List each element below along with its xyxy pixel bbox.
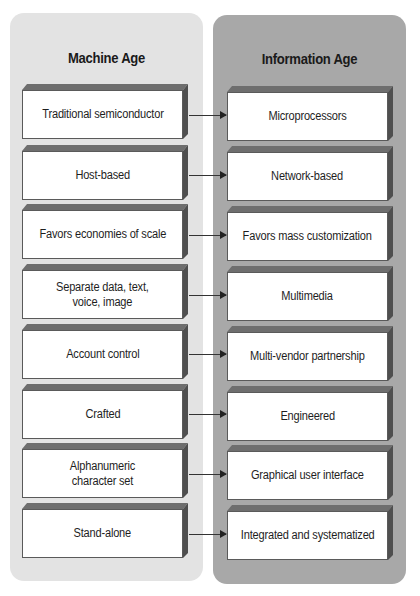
- machine-age-box: Favors economies of scale: [22, 204, 188, 259]
- box-label: Favors economies of scale: [39, 227, 166, 242]
- arrow-right-icon: [189, 474, 226, 475]
- arrow-right-icon: [189, 534, 226, 535]
- box-label: Network-based: [272, 169, 344, 184]
- box-label: Graphical user interface: [251, 468, 364, 483]
- box-label: Account control: [66, 347, 139, 362]
- information-age-box: Microprocessors: [227, 86, 393, 141]
- machine-age-box: Stand-alone: [22, 503, 188, 558]
- box-label: Alphanumeric character set: [70, 459, 135, 489]
- arrow-right-icon: [189, 414, 226, 415]
- box-label: Favors mass customization: [243, 229, 372, 244]
- box-label: Multimedia: [282, 289, 334, 304]
- information-age-box: Multimedia: [227, 266, 393, 321]
- machine-age-box: Host-based: [22, 145, 188, 200]
- box-label: Host-based: [75, 168, 130, 183]
- box-label: Crafted: [85, 407, 120, 422]
- box-label: Microprocessors: [268, 109, 346, 124]
- machine-age-box: Account control: [22, 324, 188, 379]
- arrow-right-icon: [189, 295, 226, 296]
- information-age-box: Engineered: [227, 386, 393, 441]
- machine-age-title: Machine Age: [20, 50, 194, 66]
- information-age-box: Network-based: [227, 146, 393, 201]
- information-age-box: Favors mass customization: [227, 206, 393, 261]
- machine-age-box: Alphanumeric character set: [22, 443, 188, 498]
- arrow-right-icon: [189, 235, 226, 236]
- box-label: Stand-alone: [74, 526, 132, 541]
- machine-age-box: Crafted: [22, 384, 188, 439]
- information-age-title: Information Age: [223, 51, 397, 67]
- box-label: Integrated and systematized: [241, 528, 375, 543]
- information-age-box: Integrated and systematized: [227, 505, 393, 560]
- box-label: Traditional semiconductor: [42, 107, 163, 122]
- machine-age-box: Traditional semiconductor: [22, 84, 188, 139]
- information-age-box: Graphical user interface: [227, 445, 393, 500]
- arrow-right-icon: [189, 115, 226, 116]
- box-label: Engineered: [280, 409, 335, 424]
- arrow-right-icon: [189, 175, 226, 176]
- arrow-right-icon: [189, 354, 226, 355]
- machine-age-box: Separate data, text, voice, image: [22, 264, 188, 319]
- box-label: Multi-vendor partnership: [250, 349, 365, 364]
- box-label: Separate data, text, voice, image: [56, 280, 149, 310]
- information-age-box: Multi-vendor partnership: [227, 326, 393, 381]
